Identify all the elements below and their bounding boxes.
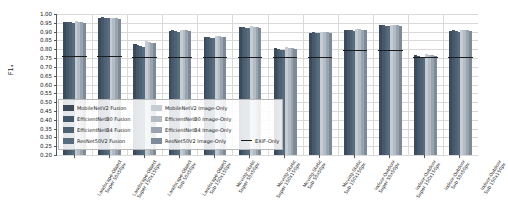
x-tick-mark <box>319 155 320 158</box>
y-tick-label: 0.25 <box>40 143 52 149</box>
legend-label: EfficientNetB0 Fusion <box>77 116 130 122</box>
x-tick-mark <box>179 155 180 158</box>
x-tick-mark <box>249 155 250 158</box>
legend-color-swatch-icon <box>151 105 162 111</box>
legend-label: EfficientNetB4 Fusion <box>77 127 130 133</box>
bar <box>329 33 332 155</box>
y-tick-label: 0.50 <box>40 99 52 105</box>
x-tick-label: Landscape-Object Sub 150x150px <box>201 159 232 200</box>
legend-entry: MobileNetV2 Image-Only <box>151 102 231 113</box>
y-tick-label: 0.35 <box>40 126 52 132</box>
bar <box>434 56 437 155</box>
y-tick-label: 0.55 <box>40 90 52 96</box>
legend-label: EfficientNetB0 Image-Only <box>165 116 231 122</box>
y-axis-label: F1ₐ <box>7 65 15 76</box>
x-tick-label: Moving-Static Super 150x150px <box>271 159 302 199</box>
y-tick-label: 0.95 <box>40 20 52 26</box>
y-tick-label: 0.60 <box>40 82 52 88</box>
bar-group <box>408 14 443 155</box>
legend-entry: EfficientNetB4 Image-Only <box>151 124 231 135</box>
legend-entry: MobileNetV2 Fusion <box>63 102 130 113</box>
bar <box>469 31 472 155</box>
legend-label: MobileNetV2 Image-Only <box>165 105 227 111</box>
bar-group <box>443 14 478 155</box>
legend-color-swatch-icon <box>151 127 162 133</box>
bar-group <box>338 14 373 155</box>
exif-only-reference-line <box>238 57 262 58</box>
legend-label: ResNet50V2 Fusion <box>77 138 125 144</box>
y-tick-label: 0.75 <box>40 55 52 61</box>
bar-group <box>373 14 408 155</box>
exif-only-reference-line <box>343 50 367 51</box>
y-tick-label: 1.00 <box>40 11 52 17</box>
x-tick-label: Landscape-Object Super 150x150px <box>131 159 162 200</box>
y-tick-label: 0.80 <box>40 46 52 52</box>
legend-color-swatch-icon <box>151 116 162 122</box>
exif-only-reference-line <box>378 50 402 51</box>
legend-entry: EXIF-Only <box>241 135 279 146</box>
legend-color-swatch-icon <box>151 138 162 144</box>
exif-only-reference-line <box>168 57 192 58</box>
y-tick-label: 0.40 <box>40 117 52 123</box>
legend-entry: EfficientNetB0 Image-Only <box>151 113 231 124</box>
exif-only-reference-line <box>203 57 227 58</box>
legend-line-marker-icon <box>241 140 252 141</box>
x-tick-label: Indoor-Outdoor Sub 50x50px <box>444 159 472 194</box>
legend-entry: EfficientNetB0 Fusion <box>63 113 130 124</box>
x-tick-mark <box>109 155 110 158</box>
legend-color-swatch-icon <box>63 138 74 144</box>
y-tick-label: 0.20 <box>40 152 52 158</box>
legend-color-swatch-icon <box>63 127 74 133</box>
legend-label: ResNet50V2 Image-Only <box>165 138 226 144</box>
legend: MobileNetV2 FusionEfficientNetB0 FusionE… <box>58 99 283 150</box>
exif-only-reference-line <box>413 57 437 58</box>
x-tick-mark <box>389 155 390 158</box>
x-tick-label: Indoor-Outdoor Sub 150x150px <box>479 159 507 195</box>
exif-only-reference-line <box>97 56 121 57</box>
x-tick-label: Landscape-Object Super 50x50px <box>96 159 127 200</box>
x-tick-label: Indoor-Outdoor Super 150x150px <box>411 159 442 199</box>
bar <box>364 30 367 155</box>
bar-group <box>303 14 338 155</box>
x-tick-label: Indoor-Outdoor Super 50x50px <box>374 159 402 194</box>
x-tick-label: Moving-Static Sub 150x150px <box>339 159 367 195</box>
legend-column-image-only: MobileNetV2 Image-OnlyEfficientNetB0 Ima… <box>151 102 231 146</box>
x-tick-mark <box>354 155 355 158</box>
gridline <box>57 155 478 156</box>
x-tick-mark <box>144 155 145 158</box>
legend-column-exif-only: EXIF-Only <box>241 135 279 146</box>
exif-only-reference-line <box>273 57 297 58</box>
legend-entry: EfficientNetB4 Fusion <box>63 124 130 135</box>
x-tick-label: Landscape-Object Sub 50x50px <box>166 159 197 200</box>
x-tick-mark <box>459 155 460 158</box>
legend-column-fusion: MobileNetV2 FusionEfficientNetB0 FusionE… <box>63 102 130 146</box>
exif-only-reference-line <box>308 57 332 58</box>
x-tick-mark <box>214 155 215 158</box>
exif-only-reference-line <box>132 57 156 58</box>
y-tick-label: 0.85 <box>40 37 52 43</box>
legend-label: EXIF-Only <box>255 138 279 144</box>
legend-label: EfficientNetB4 Image-Only <box>165 127 231 133</box>
y-tick-label: 0.90 <box>40 29 52 35</box>
legend-label: MobileNetV2 Fusion <box>77 105 126 111</box>
y-tick-label: 0.45 <box>40 108 52 114</box>
legend-color-swatch-icon <box>63 116 74 122</box>
legend-entry: ResNet50V2 Image-Only <box>151 135 231 146</box>
x-tick-label: Moving-Static Sub 50x50px <box>302 159 328 191</box>
x-tick-mark <box>284 155 285 158</box>
y-tick-label: 0.65 <box>40 73 52 79</box>
bar <box>293 49 296 155</box>
y-tick-label: 0.70 <box>40 64 52 70</box>
x-tick-mark <box>74 155 75 158</box>
legend-color-swatch-icon <box>63 105 74 111</box>
bar <box>399 26 402 155</box>
legend-entry: ResNet50V2 Fusion <box>63 135 130 146</box>
exif-only-reference-line <box>448 57 472 58</box>
x-tick-mark <box>424 155 425 158</box>
exif-only-reference-line <box>62 56 86 57</box>
y-tick-label: 0.30 <box>40 134 52 140</box>
x-tick-label: Moving-Static Super 50x50px <box>233 159 261 194</box>
